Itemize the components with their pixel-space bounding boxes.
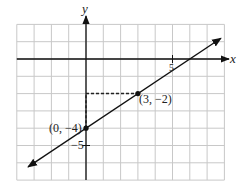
point-label-3-neg2: (3, −2) [139, 92, 172, 106]
y-tick-label-neg5: −5 [71, 138, 84, 152]
x-tick-label-5: 5 [169, 62, 174, 73]
x-axis-label: x [229, 51, 236, 66]
point-label-0-neg4: (0, −4) [49, 121, 82, 135]
coordinate-plane: x y 5 −5 (0, −4) (3, −2) [0, 0, 245, 196]
plotted-line [28, 38, 221, 167]
grid-lines [17, 24, 225, 180]
axes [17, 16, 229, 180]
y-axis-label: y [80, 1, 88, 16]
data-point [83, 126, 88, 131]
